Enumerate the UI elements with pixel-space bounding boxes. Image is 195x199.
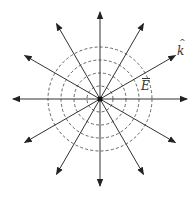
point-source bbox=[98, 97, 103, 102]
field-arrow-210deg bbox=[25, 99, 100, 143]
radial-field-diagram bbox=[0, 0, 195, 199]
field-label-text: E bbox=[141, 79, 150, 93]
hat-accent: ^ bbox=[179, 38, 186, 46]
wavevector-label-text: k bbox=[177, 44, 184, 58]
field-label-e: E bbox=[141, 80, 150, 92]
wavevector-label-k: ^k bbox=[177, 45, 184, 57]
field-arrow-60deg bbox=[100, 24, 144, 99]
field-arrow-120deg bbox=[57, 24, 101, 99]
